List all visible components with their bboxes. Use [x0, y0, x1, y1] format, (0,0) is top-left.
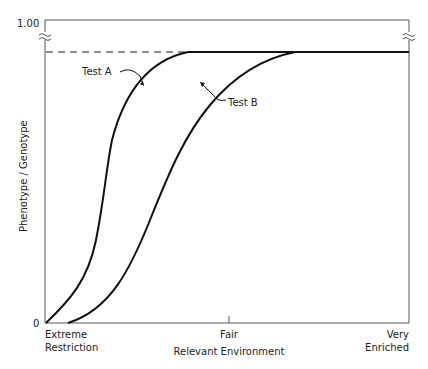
x-tick-left-line2: Restriction: [45, 342, 98, 353]
test-a-label: Test A: [81, 66, 112, 77]
x-tick-fair-label: Fair: [220, 329, 239, 340]
y-axis-label: Phenotype / Genotype: [18, 120, 29, 232]
test-b-label: Test B: [227, 97, 258, 108]
y-tick-zero: 0: [33, 318, 39, 329]
axis-break-left-icon: [39, 32, 51, 41]
axis-break-right-icon: [403, 32, 415, 41]
x-tick-right-line2: Enriched: [365, 342, 409, 353]
x-tick-left-line1: Extreme: [45, 329, 87, 340]
x-axis-label: Relevant Environment: [174, 346, 285, 357]
chart: 1.00 0 Phenotype / Genotype Test A Test …: [0, 0, 428, 369]
x-tick-right-line1: Very: [387, 329, 409, 340]
test-a-curve: [46, 52, 188, 323]
test-b-curve: [68, 52, 295, 323]
y-tick-top: 1.00: [17, 18, 39, 29]
